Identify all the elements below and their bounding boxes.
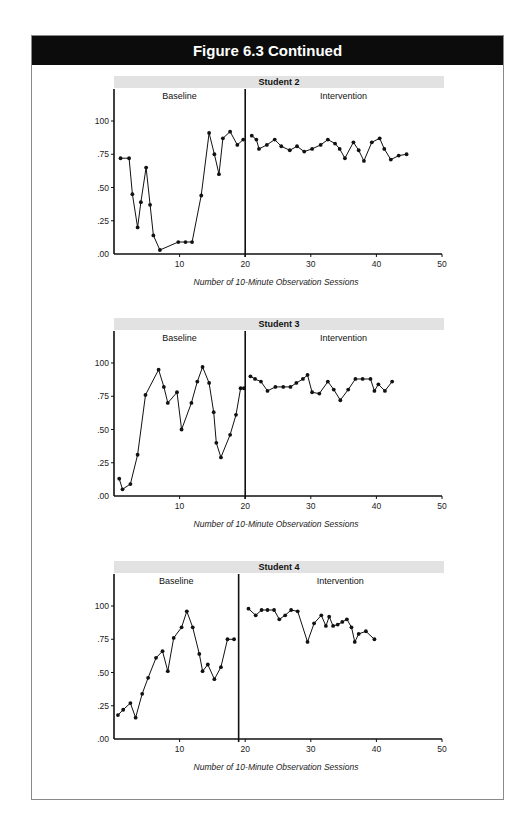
data-point — [332, 388, 336, 392]
data-point — [136, 453, 140, 457]
y-tick-label: .50 — [97, 183, 109, 193]
data-point — [295, 144, 299, 148]
data-point — [184, 240, 188, 244]
data-point — [312, 621, 316, 625]
data-point — [161, 649, 165, 653]
y-tick-label: 100 — [95, 601, 109, 611]
y-tick-label: .50 — [97, 668, 109, 678]
x-tick-label: 50 — [437, 501, 447, 511]
data-point — [232, 637, 236, 641]
data-point — [331, 624, 335, 628]
x-axis-label: Number of 10-Minute Observation Sessions — [194, 277, 360, 287]
data-point — [265, 143, 269, 147]
data-point — [144, 393, 148, 397]
data-point — [266, 608, 270, 612]
y-tick-label: .75 — [97, 149, 109, 159]
y-tick-label: 100 — [95, 358, 109, 368]
data-point — [350, 625, 354, 629]
data-point — [144, 166, 148, 170]
figure-title: Figure 6.3 Continued — [32, 36, 503, 65]
data-point — [140, 692, 144, 696]
data-point — [162, 385, 166, 389]
data-point — [369, 377, 373, 381]
data-point — [302, 150, 306, 154]
data-point — [154, 656, 158, 660]
data-point — [197, 652, 201, 656]
data-point — [176, 240, 180, 244]
series-intervention — [249, 373, 394, 402]
data-point — [353, 640, 357, 644]
data-point — [364, 629, 368, 633]
data-point — [226, 637, 230, 641]
data-point — [158, 248, 162, 252]
data-point — [242, 386, 246, 390]
data-point — [166, 669, 170, 673]
data-point — [212, 677, 216, 681]
data-point — [121, 487, 125, 491]
data-point — [195, 380, 199, 384]
data-point — [289, 608, 293, 612]
data-point — [221, 136, 225, 140]
series-baseline — [119, 130, 245, 252]
data-point — [405, 152, 409, 156]
phase-label-baseline: Baseline — [159, 576, 194, 586]
data-point — [310, 147, 314, 151]
data-point — [146, 676, 150, 680]
data-point — [272, 608, 276, 612]
y-tick-label: .00 — [97, 734, 109, 744]
data-point — [373, 389, 377, 393]
data-point — [306, 373, 310, 377]
data-point — [352, 140, 356, 144]
data-point — [166, 401, 170, 405]
phase-label-intervention: Intervention — [317, 576, 364, 586]
x-tick-label: 40 — [372, 501, 382, 511]
x-tick-label: 20 — [240, 501, 250, 511]
data-point — [175, 390, 179, 394]
y-tick-label: .75 — [97, 391, 109, 401]
data-point — [127, 156, 131, 160]
student-title: Student 2 — [258, 77, 299, 87]
data-point — [190, 240, 194, 244]
x-tick-label: 30 — [306, 501, 316, 511]
data-point — [157, 368, 161, 372]
data-point — [266, 389, 270, 393]
student-title: Student 3 — [258, 319, 299, 329]
data-point — [234, 413, 238, 417]
data-point — [390, 380, 394, 384]
data-point — [217, 172, 221, 176]
data-point — [338, 398, 342, 402]
data-point — [306, 640, 310, 644]
phase-label-baseline: Baseline — [162, 91, 197, 101]
data-point — [212, 410, 216, 414]
x-tick-label: 10 — [175, 501, 185, 511]
data-point — [294, 381, 298, 385]
data-point — [277, 617, 281, 621]
data-point — [310, 390, 314, 394]
data-point — [279, 144, 283, 148]
data-point — [207, 131, 211, 135]
data-point — [260, 608, 264, 612]
data-point — [117, 477, 121, 481]
phase-label-baseline: Baseline — [162, 333, 197, 343]
y-tick-label: .50 — [97, 425, 109, 435]
chart-student-3: Student 3BaselineIntervention.00.25.50.7… — [32, 318, 505, 543]
data-point — [180, 428, 184, 432]
data-point — [357, 632, 361, 636]
data-point — [228, 130, 232, 134]
data-point — [283, 613, 287, 617]
y-tick-label: .75 — [97, 634, 109, 644]
phase-label-intervention: Intervention — [320, 333, 367, 343]
data-point — [362, 159, 366, 163]
x-tick-label: 50 — [437, 259, 447, 269]
data-point — [207, 381, 211, 385]
series-baseline — [116, 609, 236, 719]
data-point — [389, 158, 393, 162]
y-tick-label: 100 — [95, 116, 109, 126]
data-point — [301, 377, 305, 381]
y-tick-label: .25 — [97, 216, 109, 226]
data-point — [370, 140, 374, 144]
data-point — [199, 194, 203, 198]
data-point — [172, 636, 176, 640]
data-point — [326, 138, 330, 142]
data-point — [361, 377, 365, 381]
